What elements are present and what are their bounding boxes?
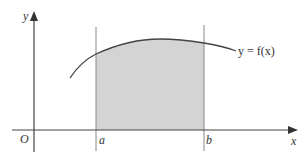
area-under-curve-diagram: y x O a b y = f(x) bbox=[0, 0, 307, 158]
curve-label: y = f(x) bbox=[238, 44, 275, 58]
x-axis-label: x bbox=[290, 134, 297, 148]
y-axis-label: y bbox=[22, 9, 29, 23]
y-axis-arrow-icon bbox=[30, 11, 38, 21]
x-axis-arrow-icon bbox=[288, 126, 298, 134]
shaded-area-region bbox=[96, 39, 204, 130]
upper-bound-label: b bbox=[206, 133, 212, 147]
lower-bound-label: a bbox=[99, 133, 105, 147]
origin-label: O bbox=[20, 132, 29, 146]
